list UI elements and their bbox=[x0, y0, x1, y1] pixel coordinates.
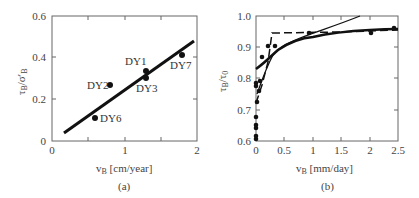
x-axis-label-b: vB [mm/day] bbox=[296, 162, 353, 176]
points-b bbox=[254, 26, 397, 142]
point-label-dy2: DY2 bbox=[87, 79, 108, 91]
x-tick-b-1: 0.5 bbox=[277, 144, 291, 156]
figure: 0 0.2 0.4 0.6 0 1 2 vB [cm/year] τB/σ′B … bbox=[0, 0, 419, 198]
point-label-dy3: DY3 bbox=[136, 82, 158, 94]
point-label-dy1: DY1 bbox=[125, 55, 146, 67]
thin-curve-b bbox=[257, 16, 360, 94]
x-tick-b-3: 1.5 bbox=[334, 144, 348, 156]
point-dy6 bbox=[92, 115, 98, 121]
point-label-dy7: DY7 bbox=[170, 59, 192, 71]
x-tick-a-0: 0 bbox=[49, 144, 55, 156]
x-tick-a-2: 2 bbox=[194, 144, 200, 156]
x-tick-b-5: 2.5 bbox=[391, 144, 405, 156]
plot-frame-a bbox=[52, 16, 197, 141]
dashed-curve-b bbox=[256, 30, 398, 103]
y-axis-label-a: τB/σ′B bbox=[15, 68, 29, 95]
chart-b: 0.6 0.7 0.8 0.9 1.0 0 0.5 1 1.5 2 2.5 vB… bbox=[216, 10, 405, 193]
x-tick-b-4: 2 bbox=[367, 144, 373, 156]
x-tick-b-2: 1 bbox=[310, 144, 316, 156]
y-tick-b-4: 1.0 bbox=[237, 10, 251, 22]
point-dy1 bbox=[143, 68, 149, 74]
x-axis-label-a: vB [cm/year] bbox=[96, 162, 152, 176]
chart-a: 0 0.2 0.4 0.6 0 1 2 vB [cm/year] τB/σ′B … bbox=[15, 10, 200, 193]
x-tick-a-1: 1 bbox=[122, 144, 128, 156]
y-tick-b-1: 0.7 bbox=[237, 104, 251, 116]
y-tick-a-2: 0.4 bbox=[32, 51, 46, 63]
x-tick-b-0: 0 bbox=[253, 144, 259, 156]
y-ticks-b bbox=[256, 47, 398, 110]
thick-curve-b bbox=[256, 29, 398, 69]
point-dy7 bbox=[179, 52, 185, 58]
point-label-dy6: DY6 bbox=[100, 112, 122, 124]
y-tick-a-3: 0.6 bbox=[32, 10, 46, 22]
y-tick-a-1: 0.2 bbox=[32, 93, 46, 105]
panel-label-b: (b) bbox=[321, 180, 334, 193]
panel-label-a: (a) bbox=[118, 180, 131, 193]
point-dy3 bbox=[143, 75, 149, 81]
y-tick-b-0: 0.6 bbox=[237, 135, 251, 147]
y-tick-b-3: 0.9 bbox=[237, 41, 251, 53]
y-tick-a-0: 0 bbox=[41, 135, 47, 147]
y-tick-b-2: 0.8 bbox=[237, 72, 251, 84]
y-axis-label-b: τB/τ0 bbox=[216, 71, 230, 92]
